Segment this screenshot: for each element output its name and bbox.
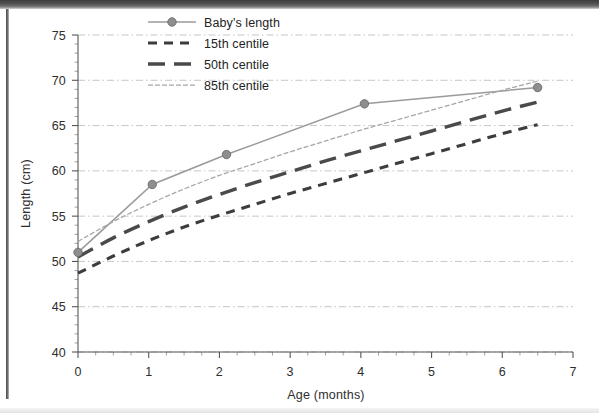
legend-label-2: 50th centile: [204, 58, 269, 72]
x-tick-label-4: 4: [357, 365, 364, 379]
x-tick-label-2: 2: [216, 365, 223, 379]
series-line-85th-centile: [78, 81, 538, 241]
x-tick-label-3: 3: [287, 365, 294, 379]
data-marker-layer: [74, 83, 542, 256]
legend-label-3: 85th centile: [204, 79, 269, 93]
y-tick-label-70: 70: [52, 74, 66, 88]
y-axis-title: Length (cm): [19, 159, 33, 228]
data-point-0: [74, 248, 82, 256]
x-tick-label-5: 5: [428, 365, 435, 379]
y-tick-label-75: 75: [52, 29, 66, 43]
x-tick-label-0: 0: [74, 365, 81, 379]
series-line-baby-s-length: [78, 88, 538, 253]
data-point-2: [222, 150, 230, 158]
data-point-1: [148, 180, 156, 188]
y-tick-label-55: 55: [52, 210, 66, 224]
x-tick-label-1: 1: [145, 365, 152, 379]
legend-label-1: 15th centile: [204, 37, 269, 51]
chart-svg: 4045505560657075 01234567 Length (cm) Ag…: [0, 0, 599, 413]
gridlines: [78, 35, 573, 352]
data-point-3: [360, 100, 368, 108]
y-axis-tick-labels: 4045505560657075: [52, 29, 66, 360]
data-point-4: [533, 83, 541, 91]
legend-item-1: 15th centile: [148, 37, 269, 51]
x-axis-title: Age (months): [287, 388, 364, 402]
x-tick-label-6: 6: [499, 365, 506, 379]
y-tick-label-40: 40: [52, 346, 66, 360]
legend-marker-0: [168, 18, 176, 26]
data-series-layer: [78, 81, 538, 273]
growth-chart-figure: 4045505560657075 01234567 Length (cm) Ag…: [0, 0, 599, 413]
x-axis-tick-labels: 01234567: [74, 365, 576, 379]
y-tick-label-50: 50: [52, 255, 66, 269]
legend-item-0: Baby's length: [148, 16, 280, 30]
legend-label-0: Baby's length: [204, 16, 280, 30]
y-tick-label-60: 60: [52, 164, 66, 178]
legend-item-2: 50th centile: [148, 58, 269, 72]
x-tick-label-7: 7: [569, 365, 576, 379]
y-axis-major-ticks: [72, 35, 78, 352]
chart-legend: Baby's length15th centile50th centile85t…: [148, 16, 280, 93]
y-tick-label-65: 65: [52, 119, 66, 133]
y-tick-label-45: 45: [52, 300, 66, 314]
